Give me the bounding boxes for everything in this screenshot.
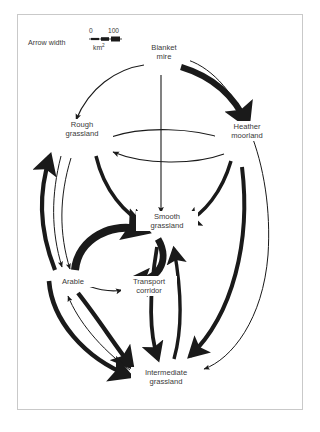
- node-blanket-mire: Blanket mire: [138, 42, 190, 62]
- node-rough-grassland-line2: grassland: [53, 129, 111, 138]
- flow-arable-to-intermediate-grassland: [78, 293, 132, 367]
- node-transport-corridor-line1: Transport: [123, 277, 175, 286]
- node-blanket-mire-line1: Blanket: [140, 43, 188, 52]
- node-rough-grassland-line1: Rough: [53, 120, 111, 129]
- node-smooth-grassland-line2: grassland: [138, 221, 196, 230]
- legend-tick-min: 0: [89, 27, 93, 34]
- node-intermediate-grassland-line2: grassland: [133, 377, 199, 386]
- node-smooth-grassland: Smooth grassland: [136, 211, 198, 231]
- node-heather-moorland-line1: Heather: [217, 122, 277, 131]
- flow-rough-grassland-to-heather-moorland: [111, 130, 224, 139]
- node-arable: Arable: [52, 276, 94, 287]
- figure-frame: Arrow width 0 100 km2 Blanket mire Rough…: [17, 14, 303, 410]
- node-intermediate-grassland: Intermediate grassland: [131, 367, 201, 387]
- legend-units-text: km: [93, 44, 102, 51]
- figure-root: Arrow width 0 100 km2 Blanket mire Rough…: [0, 0, 320, 432]
- flow-arable-to-smooth-grassland: [75, 228, 145, 270]
- flow-heather-moorland-to-rough-grassland: [113, 152, 224, 162]
- node-rough-grassland: Rough grassland: [51, 119, 113, 139]
- flow-intermediate-grassland-to-smooth-grassland: [174, 249, 180, 359]
- node-smooth-grassland-line1: Smooth: [138, 212, 196, 221]
- node-transport-corridor: Transport corridor: [121, 276, 177, 296]
- legend-units-exponent: 2: [102, 43, 105, 48]
- node-blanket-mire-line2: mire: [140, 52, 188, 61]
- flow-blanket-mire-to-rough-grassland: [76, 65, 144, 120]
- legend-tick-max: 100: [108, 27, 119, 34]
- legend-label: Arrow width: [28, 38, 66, 47]
- node-heather-moorland: Heather moorland: [215, 121, 279, 141]
- legend-units: km2: [93, 43, 105, 51]
- flow-intermediate-grassland-to-arable: [62, 158, 71, 269]
- legend-scale-bar: 0 100 km2: [89, 27, 135, 61]
- node-arable-line1: Arable: [54, 277, 92, 286]
- node-heather-moorland-line2: moorland: [217, 131, 277, 140]
- flow-smooth-grassland-to-arable: [130, 239, 163, 281]
- flow-smooth-grassland-to-intermediate-grassland: [151, 247, 158, 359]
- node-transport-corridor-line2: corridor: [123, 286, 175, 295]
- flow-arable-outer-to-intermediate-grassland: [49, 281, 130, 376]
- legend-width-ramp-icon: [89, 36, 122, 42]
- flow-arable-to-rough-grassland: [42, 156, 55, 270]
- flow-rough-grassland-to-arable-down: [54, 156, 62, 267]
- node-intermediate-grassland-line1: Intermediate: [133, 368, 199, 377]
